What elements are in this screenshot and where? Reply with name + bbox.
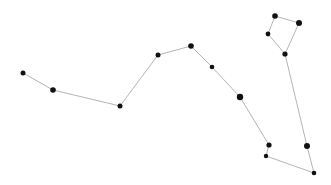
edge-L-M bbox=[268, 34, 285, 54]
edge-G-H bbox=[240, 97, 269, 145]
constellation-stars bbox=[21, 13, 317, 175]
edge-C-D bbox=[120, 55, 158, 106]
constellation-lines bbox=[23, 16, 314, 173]
star-A bbox=[21, 71, 26, 76]
star-F bbox=[210, 65, 215, 70]
star-M bbox=[266, 32, 271, 37]
edge-D-E bbox=[158, 46, 191, 55]
star-C bbox=[118, 104, 123, 109]
edge-M-N bbox=[268, 16, 275, 34]
edge-E-F bbox=[191, 46, 212, 67]
star-L bbox=[282, 51, 287, 56]
star-B bbox=[50, 87, 56, 93]
edge-I-J bbox=[266, 156, 314, 173]
star-J bbox=[312, 171, 317, 176]
star-G bbox=[237, 94, 243, 100]
star-H bbox=[266, 142, 271, 147]
constellation-diagram bbox=[0, 0, 331, 185]
edge-F-G bbox=[212, 67, 240, 97]
star-K bbox=[304, 143, 310, 149]
edge-A-B bbox=[23, 73, 53, 90]
star-I bbox=[264, 154, 268, 158]
edge-O-L bbox=[285, 23, 299, 54]
edge-B-C bbox=[53, 90, 120, 106]
star-D bbox=[156, 53, 161, 58]
edge-N-O bbox=[275, 16, 299, 23]
edge-K-L bbox=[285, 54, 307, 146]
edge-J-K bbox=[307, 146, 314, 173]
star-O bbox=[296, 20, 302, 26]
star-map bbox=[0, 0, 331, 185]
star-N bbox=[272, 13, 278, 19]
star-E bbox=[188, 43, 194, 49]
